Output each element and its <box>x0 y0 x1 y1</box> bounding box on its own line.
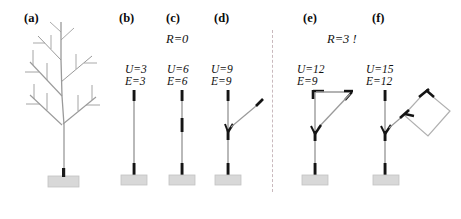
stem-diagram-panel-d <box>215 90 263 185</box>
r-label-left-group: R=0 <box>166 33 188 46</box>
panel-label-a: (a) <box>24 12 39 25</box>
stem-diagram-panel-c <box>169 90 195 185</box>
ue-label-panel-c: U=6 E=6 <box>167 63 189 88</box>
figure-artwork <box>0 0 461 219</box>
u-value-panel-d: U=9 <box>211 63 233 75</box>
ue-label-panel-b: U=3 E=3 <box>125 63 147 88</box>
u-value-panel-e: U=12 <box>297 63 325 75</box>
ue-label-panel-d: U=9 E=9 <box>211 63 233 88</box>
stem-diagram-panel-f <box>373 89 450 185</box>
r-label-right-group: R=3 ! <box>327 33 357 46</box>
e-value-panel-d: E=9 <box>211 75 233 87</box>
panel-label-c: (c) <box>166 12 180 25</box>
panel-label-b: (b) <box>119 12 134 25</box>
ue-label-panel-f: U=15 E=12 <box>366 63 394 88</box>
panel-label-f: (f) <box>372 12 385 25</box>
u-value-panel-c: U=6 <box>167 63 189 75</box>
panel-label-e: (e) <box>303 12 317 25</box>
u-value-panel-f: U=15 <box>366 63 394 75</box>
figure-root: (a) (b) (c) (d) (e) (f) R=0 R=3 ! U=3 E=… <box>0 0 461 219</box>
tree-diagram-panel-a <box>25 22 100 187</box>
u-value-panel-b: U=3 <box>125 63 147 75</box>
e-value-panel-e: E=9 <box>297 75 325 87</box>
ue-label-panel-e: U=12 E=9 <box>297 63 325 88</box>
stem-diagram-panel-b <box>121 90 147 185</box>
panel-label-d: (d) <box>214 12 229 25</box>
e-value-panel-b: E=3 <box>125 75 147 87</box>
group-divider <box>272 30 273 192</box>
e-value-panel-c: E=6 <box>167 75 189 87</box>
e-value-panel-f: E=12 <box>366 75 394 87</box>
stem-diagram-panel-e <box>302 90 353 185</box>
